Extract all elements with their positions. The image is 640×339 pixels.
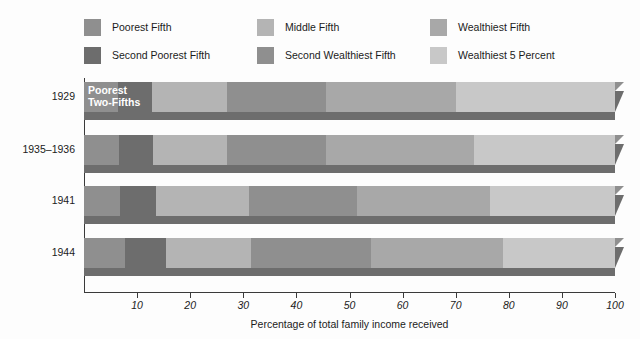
bar-segment[interactable]	[153, 135, 227, 165]
x-tick-label: 70	[450, 299, 462, 311]
x-tick	[562, 293, 563, 298]
x-tick-label: 90	[556, 299, 568, 311]
bar-end-cap	[615, 238, 624, 276]
legend-item-wealthiest-fifth: Wealthiest Fifth	[430, 16, 603, 38]
legend-swatch-icon	[430, 19, 447, 36]
x-tick	[350, 293, 351, 298]
bar-segment[interactable]	[227, 82, 325, 112]
legend-row-top: Poorest Fifth Middle Fifth Wealthiest Fi…	[84, 16, 604, 38]
bar-shadow	[84, 268, 615, 276]
bar-segment[interactable]	[503, 238, 615, 268]
x-tick-label: 80	[503, 299, 515, 311]
bar-group: 1935–1936	[84, 135, 615, 175]
x-tick-label: 100	[606, 299, 624, 311]
bar-segment[interactable]	[357, 186, 490, 216]
legend-item-label: Second Poorest Fifth	[112, 50, 210, 61]
bar-shadow	[84, 216, 615, 224]
bar-group: 1944	[84, 238, 615, 278]
x-tick	[137, 293, 138, 298]
legend-item-label: Poorest Fifth	[112, 22, 172, 33]
x-tick	[456, 293, 457, 298]
bar-segment[interactable]	[371, 238, 504, 268]
legend-row-bottom: Second Poorest Fifth Second Wealthiest F…	[84, 44, 604, 66]
category-label: 1941	[52, 194, 75, 206]
bar-segment[interactable]	[152, 82, 227, 112]
bar-segment[interactable]	[490, 186, 615, 216]
legend-item-middle-fifth: Middle Fifth	[257, 16, 430, 38]
x-tick	[509, 293, 510, 298]
bar-stack	[84, 135, 615, 165]
plot-area: 102030405060708090100 1929Poorest Two-Fi…	[84, 78, 615, 293]
x-tick	[190, 293, 191, 298]
category-label: 1929	[52, 90, 75, 102]
legend-swatch-icon	[257, 19, 274, 36]
legend-item-wealthiest-5-percent: Wealthiest 5 Percent	[430, 44, 603, 66]
bar-segment[interactable]	[84, 135, 119, 165]
legend-item-label: Wealthiest Fifth	[458, 22, 530, 33]
bar-segment[interactable]	[119, 135, 154, 165]
bar-segment[interactable]	[251, 238, 370, 268]
legend-item-second-wealthiest-fifth: Second Wealthiest Fifth	[257, 44, 430, 66]
bar-segment[interactable]	[156, 186, 249, 216]
bar-group: 1929Poorest Two-Fifths	[84, 82, 615, 122]
bar-segment[interactable]	[326, 82, 456, 112]
bar-shadow	[84, 165, 615, 173]
bar-stack	[84, 82, 615, 112]
bar-segment[interactable]	[326, 135, 475, 165]
bar-segment[interactable]	[84, 238, 125, 268]
chart-figure: Poorest Fifth Middle Fifth Wealthiest Fi…	[0, 0, 640, 339]
bar-segment[interactable]	[456, 82, 615, 112]
bar-stack	[84, 186, 615, 216]
x-tick	[615, 293, 616, 298]
x-tick-label: 40	[291, 299, 303, 311]
legend-item-label: Wealthiest 5 Percent	[458, 50, 555, 61]
bar-shadow	[84, 112, 615, 120]
bar-segment[interactable]	[474, 135, 615, 165]
bar-stack	[84, 238, 615, 268]
x-tick-label: 30	[237, 299, 249, 311]
legend-swatch-icon	[84, 19, 101, 36]
bar-segment[interactable]	[120, 186, 156, 216]
legend-swatch-icon	[430, 47, 447, 64]
x-axis-title: Percentage of total family income receiv…	[84, 318, 615, 330]
bar-end-cap	[615, 186, 624, 224]
bar-end-cap	[615, 135, 624, 173]
category-label: 1944	[52, 246, 75, 258]
chart-legend: Poorest Fifth Middle Fifth Wealthiest Fi…	[84, 14, 604, 68]
bar-segment[interactable]	[249, 186, 358, 216]
legend-swatch-icon	[257, 47, 274, 64]
x-tick-label: 50	[344, 299, 356, 311]
bar-end-cap	[615, 82, 624, 120]
x-tick-label: 10	[131, 299, 143, 311]
bar-segment[interactable]	[84, 82, 118, 112]
bar-group: 1941	[84, 186, 615, 226]
x-tick-label: 60	[397, 299, 409, 311]
legend-item-second-poorest-fifth: Second Poorest Fifth	[84, 44, 257, 66]
bar-segment[interactable]	[84, 186, 120, 216]
bar-segment[interactable]	[125, 238, 166, 268]
legend-swatch-icon	[84, 47, 101, 64]
legend-item-poorest-fifth: Poorest Fifth	[84, 16, 257, 38]
x-tick	[296, 293, 297, 298]
bar-segment[interactable]	[166, 238, 251, 268]
bar-segment[interactable]	[227, 135, 325, 165]
x-tick	[403, 293, 404, 298]
bar-segment[interactable]	[118, 82, 152, 112]
category-label: 1935–1936	[22, 143, 75, 155]
legend-item-label: Second Wealthiest Fifth	[285, 50, 396, 61]
legend-item-label: Middle Fifth	[285, 22, 339, 33]
x-tick	[243, 293, 244, 298]
x-tick-label: 20	[184, 299, 196, 311]
